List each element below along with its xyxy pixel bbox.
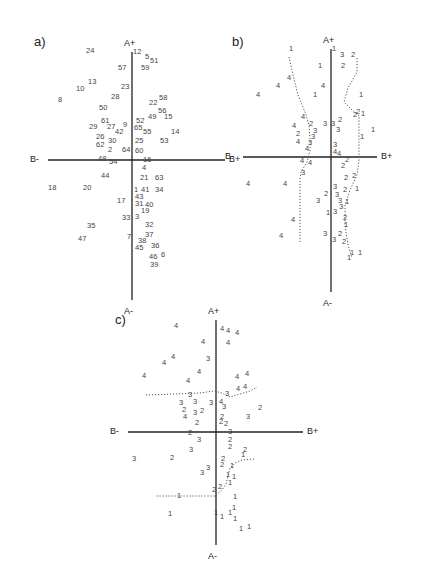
data-point: 1 (332, 45, 336, 53)
data-point: 3 (135, 213, 139, 221)
data-point: 1 (326, 209, 330, 217)
data-point: 4 (276, 82, 280, 90)
data-point: 24 (86, 47, 94, 55)
data-point: 28 (111, 93, 119, 101)
data-point: 33 (122, 214, 130, 222)
data-point: 32 (145, 221, 153, 229)
data-point: 8 (58, 96, 62, 104)
axis-label-right: B+ (307, 426, 318, 436)
data-point: 2 (352, 172, 356, 180)
axis-label-left: B- (225, 151, 234, 161)
data-point: 4 (305, 145, 309, 153)
data-point: 1 (214, 509, 218, 517)
axis-label-right: B+ (381, 151, 392, 161)
data-point: 4 (256, 91, 260, 99)
data-point: 29 (89, 123, 97, 131)
data-point: 4 (162, 359, 166, 367)
data-point: 57 (118, 64, 126, 72)
data-point: 1 (358, 249, 362, 257)
data-point: 3 (340, 51, 344, 59)
data-point: 4 (301, 113, 305, 121)
data-point: 1 (230, 462, 234, 470)
panel-label-a: a) (34, 34, 46, 49)
data-point: 1 (233, 493, 237, 501)
data-point: 4 (183, 413, 187, 421)
data-point: 4 (201, 338, 205, 346)
data-point: 13 (88, 78, 96, 86)
data-point: 2 (228, 443, 232, 451)
data-point: 3 (333, 208, 337, 216)
data-point: 4 (197, 368, 201, 376)
axis-label-top: A+ (208, 306, 219, 316)
data-point: 3 (332, 236, 336, 244)
data-point: 21 (140, 174, 148, 182)
data-point: 15 (164, 113, 172, 121)
data-point: 2 (258, 404, 262, 412)
data-point: 3 (200, 469, 204, 477)
data-point: 39 (150, 261, 158, 269)
data-point: 4 (283, 180, 287, 188)
data-point: 1 (371, 126, 375, 134)
data-point: 4 (174, 322, 178, 330)
data-point: 60 (135, 147, 143, 155)
data-point: 3 (206, 355, 210, 363)
panel-label-c: c) (115, 312, 126, 327)
data-point: 54 (109, 158, 117, 166)
axis-label-bottom: A- (323, 298, 332, 308)
data-point: 2 (218, 483, 222, 491)
data-point: 2 (212, 486, 216, 494)
data-point: 55 (143, 128, 151, 136)
data-point: 51 (150, 57, 158, 65)
data-point: 22 (149, 99, 157, 107)
data-point: 1 (220, 513, 224, 521)
data-point: 2 (342, 238, 346, 246)
data-point: 1 (344, 221, 348, 229)
data-point: 62 (96, 141, 104, 149)
data-point: 7 (127, 233, 131, 241)
data-point: 9 (123, 121, 127, 129)
data-point: 1 (289, 45, 293, 53)
data-point: 4 (142, 164, 146, 172)
data-point: 25 (135, 137, 143, 145)
data-point: 3 (189, 446, 193, 454)
data-point: 2 (108, 146, 112, 154)
data-point: 53 (160, 137, 168, 145)
data-point: 2 (341, 162, 345, 170)
data-point: 5 (145, 53, 149, 61)
data-point: 3 (246, 413, 250, 421)
data-point: 2 (338, 116, 342, 124)
data-point: 3 (209, 399, 213, 407)
data-point: 1 (345, 198, 349, 206)
data-point: 3 (193, 409, 197, 417)
data-point: 4 (186, 377, 190, 385)
data-point: 1 (168, 510, 172, 518)
data-point: 1 (355, 185, 359, 193)
data-point: 4 (279, 232, 283, 240)
data-point: 4 (287, 74, 291, 82)
dotted-boundary (155, 459, 254, 496)
data-point: 2 (343, 186, 347, 194)
data-point: 3 (222, 403, 226, 411)
data-point: 23 (121, 83, 129, 91)
data-point: 3 (188, 391, 192, 399)
data-point: 2 (324, 190, 328, 198)
data-point: 12 (133, 48, 141, 56)
data-point: 4 (246, 180, 250, 188)
data-point: 65 (134, 124, 142, 132)
data-point: 1 (318, 62, 322, 70)
data-point: 2 (220, 461, 224, 469)
data-point: 3 (336, 126, 340, 134)
data-point: 1 (347, 254, 351, 262)
data-point: 2 (195, 419, 199, 427)
data-point: 4 (142, 372, 146, 380)
data-point: 1 (361, 110, 365, 118)
data-point: 45 (135, 244, 143, 252)
data-point: 3 (197, 436, 201, 444)
data-point: 64 (122, 146, 130, 154)
data-point: 1 (359, 91, 363, 99)
data-point: 4 (220, 325, 224, 333)
data-point: 2 (353, 111, 357, 119)
data-point: 1 (233, 515, 237, 523)
dotted-boundary (146, 387, 257, 397)
data-point: 30 (108, 137, 116, 145)
